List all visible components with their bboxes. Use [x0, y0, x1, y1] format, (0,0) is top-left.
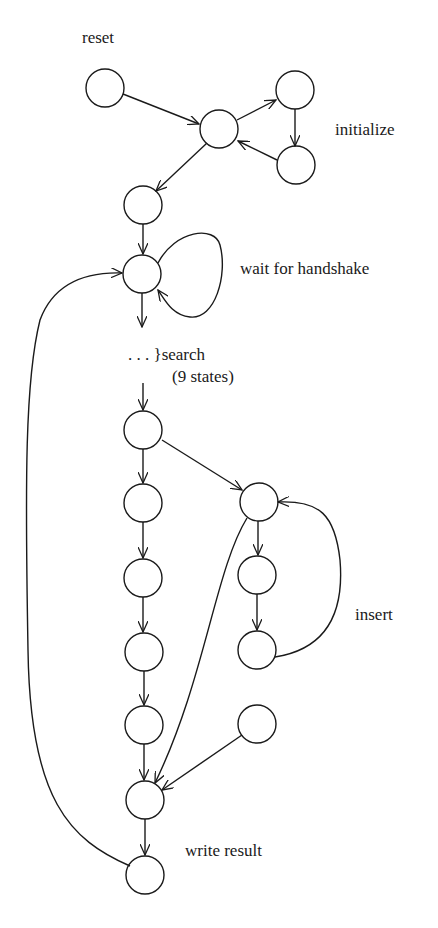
label-search-count: (9 states) — [172, 367, 234, 387]
label-insert: insert — [355, 605, 393, 625]
state-r4 — [238, 705, 276, 743]
label-write: write result — [185, 841, 262, 861]
state-r2 — [238, 556, 276, 594]
state-r1 — [240, 483, 278, 521]
state-init-a — [276, 71, 314, 109]
state-l2 — [124, 559, 162, 597]
edge-init-prewait — [156, 143, 207, 191]
state-l3 — [125, 633, 163, 671]
self-loop-wait — [158, 233, 222, 317]
state-reset — [86, 69, 124, 107]
edge-r3-r1 — [275, 502, 341, 657]
state-wait — [123, 255, 161, 293]
state-merge — [126, 781, 164, 819]
state-l4 — [125, 706, 163, 744]
state-pre-wait — [124, 186, 162, 224]
state-init-hub — [200, 110, 238, 148]
edge-r4-merge — [162, 735, 242, 790]
state-r3 — [238, 631, 276, 669]
label-wait: wait for handshake — [240, 259, 369, 279]
state-l1 — [124, 484, 162, 522]
state-write — [126, 856, 164, 894]
state-init-b — [277, 146, 315, 184]
label-reset: reset — [82, 28, 114, 48]
edge-r1-merge — [155, 518, 247, 783]
state-s1 — [124, 411, 162, 449]
label-search: . . . }search — [128, 345, 205, 365]
edge-reset-init — [123, 94, 199, 124]
edge-init-a — [237, 100, 276, 120]
edge-b-init — [238, 141, 277, 160]
label-initialize: initialize — [335, 120, 394, 140]
edge-write-wait — [26, 273, 130, 866]
edge-s1-r1 — [162, 440, 242, 490]
